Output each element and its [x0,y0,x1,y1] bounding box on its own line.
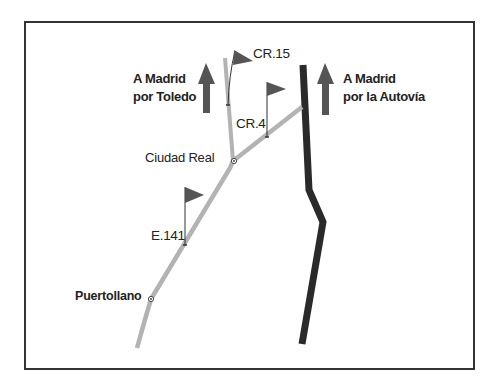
road-label-e141: E.141 [151,229,185,243]
road-label-cr4: CR.4 [236,117,266,131]
road-cr15 [225,58,233,161]
arrow-up-icon [198,63,215,113]
direction-label-autovia: A Madrid por la Autovía [343,70,425,106]
road-label-cr15: CR.15 [253,47,290,61]
arrow-up-icon [317,63,334,115]
direction-line2: por Toledo [133,88,196,106]
direction-line2: por la Autovía [343,88,425,106]
direction-line1: A Madrid [343,70,425,88]
direction-label-toledo: A Madrid por Toledo [133,70,196,106]
town-label-ciudad-real: Ciudad Real [145,151,214,164]
town-node-puertollano [148,296,153,301]
town-node-ciudad-real [231,158,236,163]
motorway-line [302,65,323,344]
direction-line1: A Madrid [133,70,196,88]
flag-icon [226,50,253,105]
route-map [0,0,494,392]
town-label-puertollano: Puertollano [75,290,142,303]
